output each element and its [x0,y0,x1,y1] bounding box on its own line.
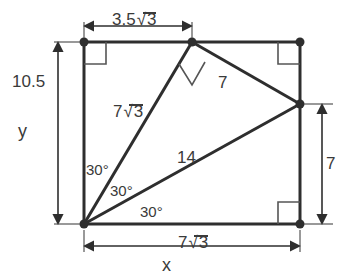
x-axis-label: x [162,256,171,274]
right-angle-top-left [84,42,106,64]
segment-7root3-value: 7 [113,102,122,121]
segment-7root3-line [84,42,192,224]
right-dimension-label: 7 [326,155,335,172]
bottom-dimension-radical: √3 [187,234,208,251]
top-dimension-radical: √3 [136,11,157,28]
vertex-bottom-left [80,220,89,229]
vertex-right-middle [296,100,305,109]
segment-7root3-label: 7√3 [113,103,143,120]
vertex-top-left [80,38,89,47]
segment-7-label: 7 [218,74,227,91]
segment-14-label: 14 [177,149,196,166]
angle-lower-label: 30° [140,204,163,219]
geometry-diagram [0,0,341,280]
bottom-dimension-value: 7 [178,233,187,252]
vertex-top-right [296,38,305,47]
segment-7root3-radical: √3 [122,103,143,120]
bottom-dimension-label: 7√3 [178,234,208,251]
vertex-bottom-right [296,220,305,229]
left-dimension-label: 10.5 [12,73,45,90]
top-dimension-label: 3.5√3 [112,11,156,28]
top-dimension-value: 3.5 [112,10,136,29]
right-angle-bottom-right [278,202,300,224]
right-angle-top-right [278,42,300,64]
angle-upper-label: 30° [86,162,109,177]
y-axis-label: y [18,122,27,140]
vertex-top-middle [188,38,197,47]
segment-7-line [192,42,300,104]
right-angle-top-middle-rotated [179,62,205,85]
angle-middle-label: 30° [110,183,133,198]
